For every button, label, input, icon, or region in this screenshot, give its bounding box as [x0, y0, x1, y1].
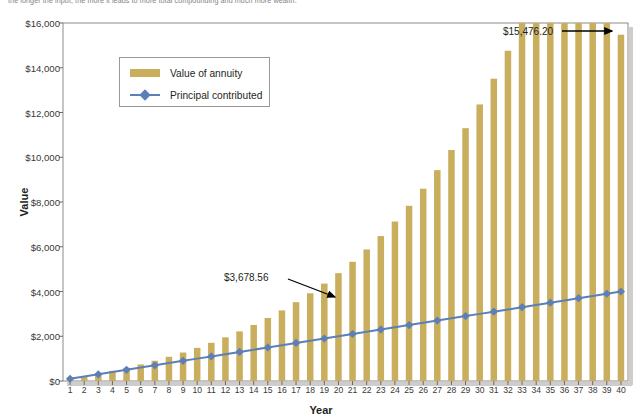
x-axis-tick-label: 39	[602, 385, 612, 395]
x-axis-tick-label: 3	[96, 385, 101, 395]
y-axis-tick-label: $2,000	[2, 331, 60, 342]
legend-label-principal: Principal contributed	[170, 90, 262, 101]
bar	[307, 293, 314, 381]
bar	[321, 284, 328, 381]
final-value-annotation-label: $15,476.20	[503, 26, 553, 37]
y-axis-tick-label: $6,000	[2, 241, 60, 252]
bar	[166, 357, 173, 381]
legend-item-principal: Principal contributed	[130, 87, 262, 103]
y-axis-tick-label: $4,000	[2, 286, 60, 297]
x-axis-tick-label: 22	[362, 385, 372, 395]
x-axis-tick-label: 10	[192, 385, 202, 395]
x-axis-tick-label: 34	[531, 385, 541, 395]
plot-area	[0, 0, 642, 420]
x-axis-tick-label: 21	[348, 385, 358, 395]
bar	[618, 35, 625, 381]
x-axis-tick-label: 18	[305, 385, 315, 395]
y-axis-tick-label: $8,000	[2, 197, 60, 208]
bar	[208, 343, 215, 381]
x-axis-tick-label: 32	[503, 385, 513, 395]
x-axis-tick-label: 15	[263, 385, 273, 395]
y-axis-tick-labels: $0$2,000$4,000$6,000$8,000$10,000$12,000…	[0, 0, 60, 420]
x-axis-tick-label: 14	[249, 385, 259, 395]
bar	[561, 23, 568, 381]
x-axis-tick-label: 6	[138, 385, 143, 395]
bar	[462, 128, 469, 381]
legend-label-annuity: Value of annuity	[170, 68, 242, 79]
bar	[448, 150, 455, 381]
bar	[378, 236, 385, 381]
bar	[575, 23, 582, 381]
x-axis-tick-label: 16	[277, 385, 287, 395]
x-axis-tick-label: 27	[433, 385, 443, 395]
bar	[194, 348, 201, 381]
bar	[505, 51, 512, 381]
bar	[250, 325, 257, 381]
bar	[392, 222, 399, 381]
x-axis-tick-label: 29	[461, 385, 471, 395]
x-axis-tick-label: 9	[181, 385, 186, 395]
y-axis-tick-label: $12,000	[2, 107, 60, 118]
y-axis-tick-label: $16,000	[2, 18, 60, 29]
x-axis-tick-label: 17	[291, 385, 301, 395]
x-axis-tick-label: 12	[221, 385, 231, 395]
bar	[491, 79, 498, 381]
x-axis-tick-label: 26	[418, 385, 428, 395]
legend-item-annuity: Value of annuity	[130, 65, 242, 81]
x-axis-tick-label: 4	[110, 385, 115, 395]
midpoint-value-annotation-label: $3,678.56	[224, 272, 269, 283]
y-axis-title: Value	[18, 172, 30, 232]
x-axis-tick-label: 7	[152, 385, 157, 395]
bar	[222, 337, 229, 381]
x-axis-tick-label: 11	[207, 385, 216, 395]
bar	[406, 206, 413, 381]
x-axis-tick-label: 35	[546, 385, 556, 395]
x-axis-tick-label: 37	[574, 385, 584, 395]
x-axis-tick-label: 1	[68, 385, 73, 395]
x-axis-tick-label: 2	[82, 385, 87, 395]
legend-line-swatch-icon	[130, 89, 160, 101]
chart-legend: Value of annuity Principal contributed	[119, 57, 270, 107]
x-axis-tick-label: 28	[447, 385, 457, 395]
bar	[533, 23, 540, 381]
bar	[420, 189, 427, 381]
bar	[335, 273, 342, 381]
bar	[363, 249, 370, 381]
x-axis-tick-label: 25	[404, 385, 414, 395]
bar	[236, 331, 243, 381]
x-axis-tick-label: 36	[560, 385, 570, 395]
x-axis-tick-label: 31	[489, 385, 499, 395]
x-axis-tick-label: 20	[334, 385, 344, 395]
bar	[604, 23, 611, 381]
x-axis-tick-label: 33	[517, 385, 527, 395]
x-axis-title: Year	[0, 404, 642, 416]
bar	[349, 262, 356, 381]
annuity-growth-chart: $0$2,000$4,000$6,000$8,000$10,000$12,000…	[0, 0, 642, 420]
x-axis-tick-label: 5	[124, 385, 129, 395]
y-axis-tick-label: $0	[2, 376, 60, 387]
bar	[476, 104, 483, 381]
x-axis-tick-label: 24	[390, 385, 400, 395]
x-axis-tick-label: 19	[320, 385, 330, 395]
x-axis-tick-label: 8	[167, 385, 172, 395]
plot-shadow-right	[629, 27, 633, 385]
bar	[519, 23, 526, 381]
bar	[547, 23, 554, 381]
x-axis-tick-label: 38	[588, 385, 598, 395]
x-axis-tick-label: 23	[376, 385, 386, 395]
x-axis-tick-label: 30	[475, 385, 485, 395]
bar	[589, 23, 596, 381]
y-axis-tick-label: $14,000	[2, 62, 60, 73]
x-axis-tick-label: 13	[235, 385, 245, 395]
legend-bar-swatch-icon	[130, 69, 160, 77]
x-axis-tick-label: 40	[616, 385, 626, 395]
y-axis-tick-label: $10,000	[2, 152, 60, 163]
bar	[434, 170, 441, 381]
